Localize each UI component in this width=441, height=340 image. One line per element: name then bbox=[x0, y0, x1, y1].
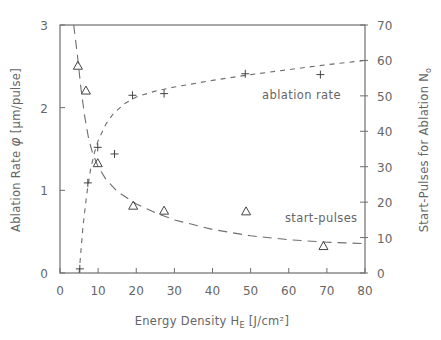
ablation-rate-label: ablation rate bbox=[262, 88, 341, 102]
plot-border bbox=[60, 25, 365, 273]
plus-marker bbox=[316, 71, 324, 79]
left-y-axis-title: Ablation Rate φ [μm/pulse] bbox=[7, 68, 23, 232]
triangle-marker bbox=[160, 206, 169, 214]
x-tick-label: 80 bbox=[357, 284, 372, 298]
start-pulses-label: start-pulses bbox=[285, 211, 358, 225]
x-tick-label: 50 bbox=[243, 284, 258, 298]
x-tick-label: 40 bbox=[205, 284, 220, 298]
x-axis-title: Energy Density HE [J/cm²] bbox=[135, 314, 290, 330]
x-tick-label: 70 bbox=[319, 284, 334, 298]
right-y-axis-title: Start-Pulses for Ablation No bbox=[417, 68, 433, 233]
right-y-tick-label: 60 bbox=[377, 54, 392, 68]
plus-marker bbox=[111, 150, 119, 158]
plus-marker bbox=[160, 90, 168, 98]
right-y-tick-label: 30 bbox=[377, 161, 392, 175]
triangle-marker bbox=[81, 86, 90, 94]
fit-curves bbox=[74, 25, 365, 273]
x-tick-label: 10 bbox=[90, 284, 105, 298]
x-tick-label: 0 bbox=[56, 284, 64, 298]
right-y-tick-label: 10 bbox=[377, 232, 392, 246]
left-y-axis-ticks: 0123 bbox=[40, 19, 65, 281]
left-y-tick-label: 2 bbox=[40, 102, 48, 116]
plus-marker bbox=[76, 265, 84, 273]
right-y-tick-label: 20 bbox=[377, 196, 392, 210]
left-y-tick-label: 0 bbox=[40, 267, 48, 281]
x-tick-label: 60 bbox=[281, 284, 296, 298]
right-y-tick-label: 70 bbox=[377, 19, 392, 33]
left-y-tick-label: 3 bbox=[40, 19, 48, 33]
plus-marker bbox=[241, 70, 249, 78]
chart: 01020304050607080 0123 010203040506070 a… bbox=[0, 0, 441, 340]
plot-frame bbox=[60, 25, 365, 273]
x-tick-label: 20 bbox=[129, 284, 144, 298]
right-y-tick-label: 40 bbox=[377, 125, 392, 139]
series-annotations: ablation ratestart-pulses bbox=[262, 88, 357, 224]
right-y-tick-label: 50 bbox=[377, 90, 392, 104]
right-y-tick-label: 0 bbox=[377, 267, 385, 281]
x-tick-label: 30 bbox=[167, 284, 182, 298]
plus-marker bbox=[84, 179, 92, 187]
triangle-marker bbox=[242, 207, 251, 215]
triangle-marker bbox=[319, 242, 328, 250]
left-y-tick-label: 1 bbox=[40, 184, 48, 198]
